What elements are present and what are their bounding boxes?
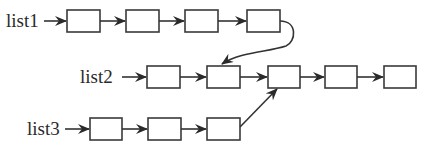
list2-node-1 <box>147 66 180 88</box>
list2-node-5 <box>384 66 416 88</box>
list3-node-2 <box>148 118 181 140</box>
list2-label: list2 <box>80 66 113 87</box>
list3-label: list3 <box>27 118 60 139</box>
list3-node-3 <box>207 118 240 140</box>
list1-node-4 <box>247 10 280 32</box>
list1-node-3 <box>185 10 218 32</box>
list2-node-3 <box>268 66 300 88</box>
list2-node-2 <box>207 66 240 88</box>
list1-node-2 <box>126 10 159 32</box>
linked-list-diagram: list1 list2 list3 <box>0 0 428 151</box>
list3-merge-arrow <box>240 89 277 127</box>
list1-node-1 <box>67 10 100 32</box>
list2-node-4 <box>325 66 357 88</box>
list3-node-1 <box>90 118 122 140</box>
list1-label: list1 <box>6 10 39 31</box>
